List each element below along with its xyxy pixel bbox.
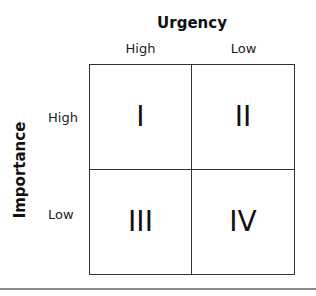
bottom-divider xyxy=(0,288,316,290)
importance-high-label: High xyxy=(48,110,78,125)
importance-axis-title: Importance xyxy=(11,122,29,219)
quadrant-1: I xyxy=(90,65,192,170)
quadrant-grid: I II III IV xyxy=(89,64,295,275)
urgency-high-label: High xyxy=(89,41,192,56)
urgency-axis-title: Urgency xyxy=(89,14,295,32)
importance-low-label: Low xyxy=(48,207,74,222)
urgency-low-label: Low xyxy=(192,41,295,56)
quadrant-3: III xyxy=(90,170,192,275)
quadrant-4: IV xyxy=(192,170,294,275)
quadrant-2: II xyxy=(192,65,294,170)
